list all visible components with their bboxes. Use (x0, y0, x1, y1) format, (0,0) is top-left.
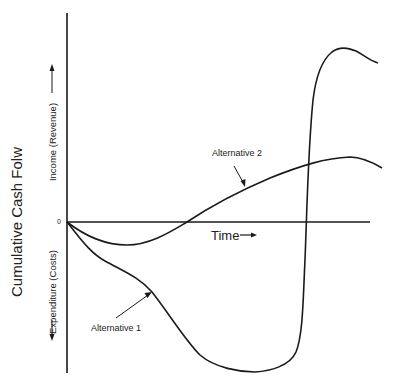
income-arrow-icon (50, 64, 55, 93)
income-label: Income (Revenue) (47, 103, 58, 181)
y-axis-title: Cumulative Cash Folw (8, 147, 25, 297)
origin-label: 0 (57, 218, 61, 225)
cash-flow-diagram: Cumulative Cash Folw Income (Revenue) Ex… (0, 0, 394, 387)
alternative-2-label: Alternative 2 (212, 148, 262, 158)
x-axis-label: Time (211, 228, 239, 243)
alternative-1-label: Alternative 1 (91, 323, 141, 333)
alternative-1-pointer-icon (116, 292, 152, 318)
time-arrow-icon (240, 233, 257, 238)
alternative-2-pointer-icon (234, 166, 246, 187)
